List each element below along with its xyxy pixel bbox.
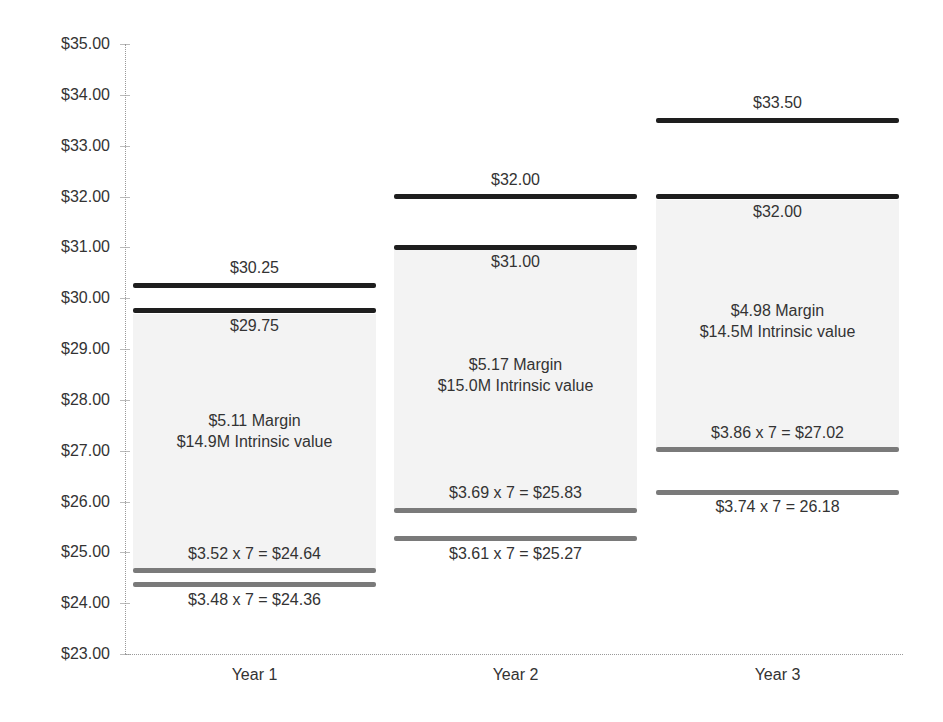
y-tick-label: $33.00 bbox=[20, 137, 110, 155]
x-axis bbox=[125, 654, 903, 655]
price-high-line bbox=[656, 118, 899, 123]
value-high-label: $3.69 x 7 = $25.83 bbox=[394, 484, 637, 502]
margin-text: $5.17 Margin bbox=[394, 354, 637, 375]
intrinsic-value-text: $14.5M Intrinsic value bbox=[656, 321, 899, 342]
y-tick-label: $28.00 bbox=[20, 391, 110, 409]
price-range-chart: $35.00$34.00$33.00$32.00$31.00$30.00$29.… bbox=[0, 0, 943, 722]
intrinsic-value-text: $14.9M Intrinsic value bbox=[133, 431, 376, 452]
value-high-label: $3.52 x 7 = $24.64 bbox=[133, 545, 376, 563]
x-category-label: Year 2 bbox=[394, 666, 637, 684]
y-tick-label: $24.00 bbox=[20, 594, 110, 612]
y-tick-label: $32.00 bbox=[20, 188, 110, 206]
value-high-line bbox=[394, 508, 637, 513]
y-tick-label: $30.00 bbox=[20, 289, 110, 307]
value-low-line bbox=[656, 490, 899, 495]
value-low-line bbox=[394, 536, 637, 541]
value-low-label: $3.74 x 7 = 26.18 bbox=[656, 498, 899, 516]
value-high-line bbox=[656, 447, 899, 452]
margin-text: $4.98 Margin bbox=[656, 300, 899, 321]
margin-annotation: $5.11 Margin$14.9M Intrinsic value bbox=[133, 410, 376, 452]
price-high-label: $33.50 bbox=[656, 94, 899, 112]
value-low-label: $3.48 x 7 = $24.36 bbox=[133, 591, 376, 609]
margin-annotation: $4.98 Margin$14.5M Intrinsic value bbox=[656, 300, 899, 342]
y-tick-label: $31.00 bbox=[20, 238, 110, 256]
price-high-line bbox=[394, 194, 637, 199]
intrinsic-value-text: $15.0M Intrinsic value bbox=[394, 375, 637, 396]
value-low-line bbox=[133, 582, 376, 587]
price-low-line bbox=[656, 194, 899, 199]
y-tick-label: $23.00 bbox=[20, 645, 110, 663]
margin-annotation: $5.17 Margin$15.0M Intrinsic value bbox=[394, 354, 637, 396]
price-high-label: $32.00 bbox=[394, 171, 637, 189]
y-tick-label: $29.00 bbox=[20, 340, 110, 358]
margin-text: $5.11 Margin bbox=[133, 410, 376, 431]
value-low-label: $3.61 x 7 = $25.27 bbox=[394, 545, 637, 563]
y-tick-label: $26.00 bbox=[20, 493, 110, 511]
price-low-line bbox=[133, 308, 376, 313]
y-tick-label: $25.00 bbox=[20, 543, 110, 561]
price-low-label: $29.75 bbox=[133, 317, 376, 335]
value-high-line bbox=[133, 568, 376, 573]
price-high-label: $30.25 bbox=[133, 259, 376, 277]
y-axis bbox=[125, 44, 126, 654]
price-low-label: $31.00 bbox=[394, 253, 637, 271]
price-low-line bbox=[394, 245, 637, 250]
x-category-label: Year 3 bbox=[656, 666, 899, 684]
y-tick-label: $27.00 bbox=[20, 442, 110, 460]
x-category-label: Year 1 bbox=[133, 666, 376, 684]
price-low-label: $32.00 bbox=[656, 203, 899, 221]
y-tick-label: $34.00 bbox=[20, 86, 110, 104]
price-high-line bbox=[133, 283, 376, 288]
y-tick-label: $35.00 bbox=[20, 35, 110, 53]
value-high-label: $3.86 x 7 = $27.02 bbox=[656, 424, 899, 442]
